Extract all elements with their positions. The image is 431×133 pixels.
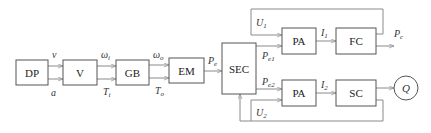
label-omega-o: ωo xyxy=(153,49,164,62)
block-fc-label: FC xyxy=(349,35,362,47)
block-dp-label: DP xyxy=(25,67,39,79)
label-p-e2: Pe2 xyxy=(261,76,275,89)
block-sc: SC xyxy=(336,80,376,106)
block-q-label: Q xyxy=(402,82,410,94)
label-v: v xyxy=(52,49,57,60)
block-v: V xyxy=(63,60,97,85)
label-t-i: Ti xyxy=(103,86,111,99)
block-sec-label: SEC xyxy=(229,63,249,75)
block-em-label: EM xyxy=(178,65,195,77)
block-pa-bottom: PA xyxy=(282,80,316,106)
label-a: a xyxy=(51,87,56,98)
block-pa-top: PA xyxy=(282,28,316,54)
energy-flow-block-diagram: DP V GB EM SEC PA FC PA SC Q v a ωi Ti xyxy=(0,0,431,133)
block-v-label: V xyxy=(76,67,84,79)
block-dp: DP xyxy=(16,60,48,85)
block-gb: GB xyxy=(116,60,149,85)
block-pa-bottom-label: PA xyxy=(292,87,305,99)
block-fc: FC xyxy=(336,28,376,54)
block-q: Q xyxy=(394,76,418,100)
label-u2: U2 xyxy=(256,107,267,120)
label-p-e1: Pe1 xyxy=(261,50,275,63)
label-p-c: Pc xyxy=(393,28,404,41)
block-pa-top-label: PA xyxy=(292,35,305,47)
block-em: EM xyxy=(169,58,204,83)
label-p-e: Pe xyxy=(207,55,217,68)
block-gb-label: GB xyxy=(125,67,140,79)
block-sec: SEC xyxy=(222,43,256,94)
label-i2: I2 xyxy=(320,79,328,92)
label-i1: I1 xyxy=(320,27,328,40)
block-sc-label: SC xyxy=(349,87,362,99)
label-t-o: To xyxy=(155,85,165,98)
label-u1: U1 xyxy=(256,17,267,30)
label-omega-i: ωi xyxy=(101,49,110,62)
